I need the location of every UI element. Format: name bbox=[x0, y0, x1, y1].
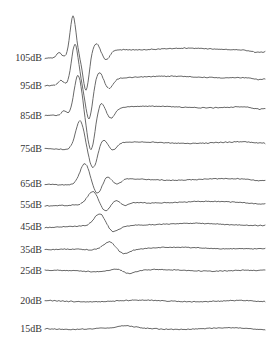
abr-waveform-chart: 105dB 95dB 85dB 75dB 65dB 55dB 45dB 35dB… bbox=[0, 0, 279, 352]
waveform-traces bbox=[45, 16, 265, 330]
trace-20db bbox=[45, 300, 265, 302]
label-45db: 45dB bbox=[20, 221, 42, 232]
trace-65db bbox=[45, 164, 265, 194]
trace-45db bbox=[45, 214, 265, 232]
trace-75db bbox=[45, 121, 265, 168]
label-55db: 55dB bbox=[20, 199, 42, 210]
label-105db: 105dB bbox=[15, 52, 42, 63]
trace-25db bbox=[45, 269, 265, 274]
label-20db: 20dB bbox=[20, 295, 42, 306]
trace-105db bbox=[45, 16, 265, 90]
trace-85db bbox=[45, 75, 265, 149]
label-15db: 15dB bbox=[20, 323, 42, 334]
label-85db: 85dB bbox=[20, 110, 42, 121]
trace-35db bbox=[45, 242, 265, 254]
label-35db: 35dB bbox=[20, 244, 42, 255]
label-95db: 95dB bbox=[20, 80, 42, 91]
trace-55db bbox=[45, 192, 265, 211]
label-65db: 65dB bbox=[20, 178, 42, 189]
label-25db: 25dB bbox=[20, 265, 42, 276]
label-75db: 75dB bbox=[20, 143, 42, 154]
trace-15db bbox=[45, 326, 265, 330]
intensity-labels: 105dB 95dB 85dB 75dB 65dB 55dB 45dB 35dB… bbox=[15, 52, 42, 334]
